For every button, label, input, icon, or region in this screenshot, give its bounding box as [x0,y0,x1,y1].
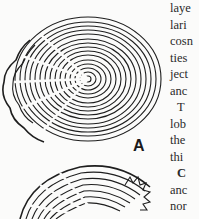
text-line: anc [170,182,199,199]
text-line: the [170,132,199,149]
text-line: ject [170,66,199,83]
text-line: lari [170,17,199,34]
figure-label-a: A [133,137,145,155]
body-text-column: laye lari cosn ties ject anc T lob the t… [170,0,199,215]
text-line: T [170,99,199,116]
text-line: lob [170,116,199,133]
text-line: anc [170,83,199,100]
text-line: nor [170,198,199,215]
text-line: C [170,165,199,182]
text-line: cosn [170,33,199,50]
scale-drawing-icon [0,0,165,219]
text-line: thi [170,149,199,166]
text-line: ties [170,50,199,67]
fish-scale-illustration: A [0,0,165,219]
text-line: laye [170,0,199,17]
